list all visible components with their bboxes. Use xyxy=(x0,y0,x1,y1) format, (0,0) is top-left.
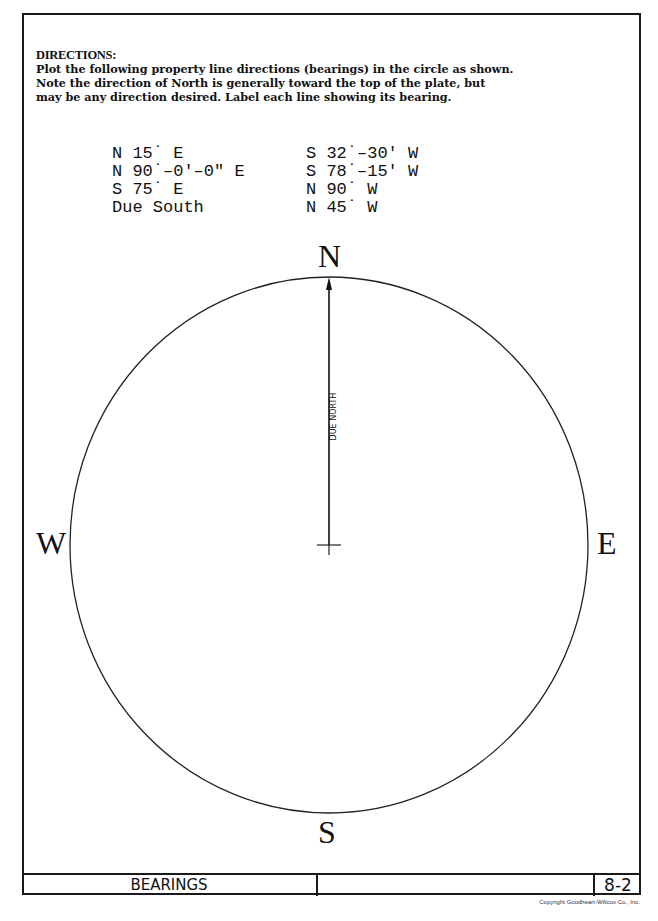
plate-title: BEARINGS xyxy=(22,875,318,896)
copyright-notice: Copyright Goodheart-Willcox Co., Inc. xyxy=(539,899,640,905)
east-label: E xyxy=(597,527,617,559)
arrowhead-icon xyxy=(326,277,332,290)
north-label: N xyxy=(318,240,341,272)
due-north-label: DUE NORTH xyxy=(329,393,338,441)
compass-circle-plot xyxy=(0,0,658,921)
south-label: S xyxy=(318,816,336,848)
west-label: W xyxy=(36,527,66,559)
plate-number: 8-2 xyxy=(593,875,641,896)
title-block: BEARINGS 8-2 xyxy=(22,873,641,896)
